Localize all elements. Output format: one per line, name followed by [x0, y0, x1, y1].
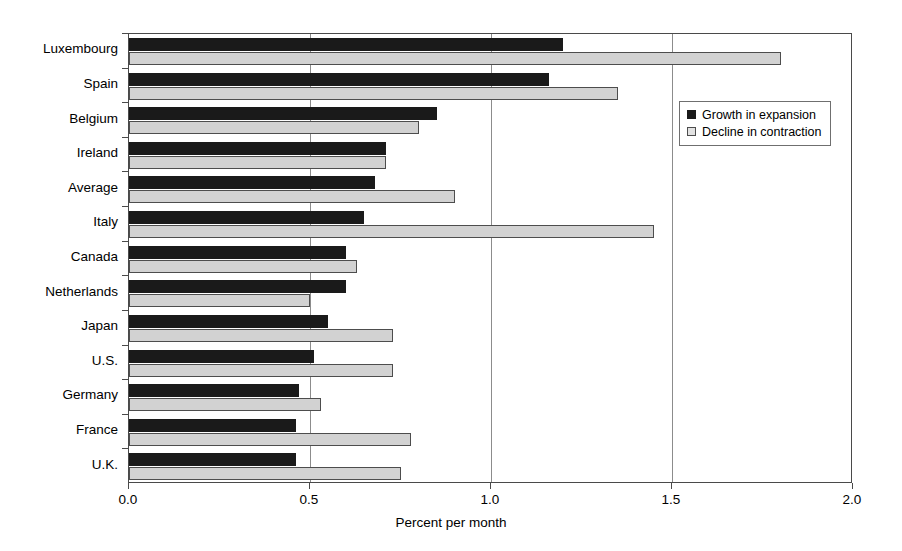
legend-label-decline: Decline in contraction	[702, 125, 822, 139]
y-axis-label-spain: Spain	[8, 77, 118, 91]
x-tick-2.0	[852, 483, 853, 489]
y-axis-label-germany: Germany	[8, 388, 118, 402]
bar-growth	[129, 176, 375, 189]
bar-growth	[129, 38, 563, 51]
y-axis-labels: LuxembourgSpainBelgiumIrelandAverageItal…	[0, 0, 118, 551]
bar-chart: LuxembourgSpainBelgiumIrelandAverageItal…	[0, 0, 902, 551]
bar-group-germany	[129, 384, 851, 419]
x-tick-label-1.5: 1.5	[641, 492, 701, 508]
bar-growth	[129, 419, 296, 432]
y-axis-label-italy: Italy	[8, 215, 118, 229]
bar-decline	[129, 467, 401, 480]
x-tick-0.0	[128, 483, 129, 489]
legend-swatch-dark-icon	[687, 110, 696, 119]
bar-growth	[129, 453, 296, 466]
bar-growth	[129, 384, 299, 397]
x-tick-label-1.0: 1.0	[460, 492, 520, 508]
x-axis-title: Percent per month	[0, 515, 902, 530]
bar-decline	[129, 260, 357, 273]
bar-growth	[129, 142, 386, 155]
x-tick-label-0.5: 0.5	[279, 492, 339, 508]
bar-group-france	[129, 419, 851, 454]
bar-group-average	[129, 176, 851, 211]
bar-growth	[129, 315, 328, 328]
x-tick-1.5	[671, 483, 672, 489]
bar-growth	[129, 73, 549, 86]
bar-decline	[129, 329, 393, 342]
bar-group-luxembourg	[129, 38, 851, 73]
y-axis-label-canada: Canada	[8, 250, 118, 264]
y-axis-label-japan: Japan	[8, 319, 118, 333]
x-tick-0.5	[309, 483, 310, 489]
legend-label-growth: Growth in expansion	[702, 108, 816, 122]
bar-decline	[129, 156, 386, 169]
y-axis-label-france: France	[8, 423, 118, 437]
bar-decline	[129, 121, 419, 134]
bar-group-italy	[129, 211, 851, 246]
y-axis-label-average: Average	[8, 181, 118, 195]
bar-decline	[129, 433, 411, 446]
bar-group-ireland	[129, 142, 851, 177]
bar-growth	[129, 350, 314, 363]
x-tick-label-0.0: 0.0	[98, 492, 158, 508]
bar-decline	[129, 294, 310, 307]
legend-item-decline-in-contraction: Decline in contraction	[687, 123, 822, 140]
bar-group-u-s	[129, 350, 851, 385]
x-tick-label-2.0: 2.0	[822, 492, 882, 508]
legend-item-growth-in-expansion: Growth in expansion	[687, 106, 822, 123]
bar-growth	[129, 280, 346, 293]
bar-group-netherlands	[129, 280, 851, 315]
legend-swatch-light-icon	[687, 127, 696, 136]
bar-decline	[129, 87, 618, 100]
bar-group-japan	[129, 315, 851, 350]
chart-legend: Growth in expansion Decline in contracti…	[679, 101, 831, 146]
x-tick-1.0	[490, 483, 491, 489]
y-axis-label-netherlands: Netherlands	[8, 285, 118, 299]
bar-decline	[129, 398, 321, 411]
bar-growth	[129, 107, 437, 120]
y-axis-label-luxembourg: Luxembourg	[8, 42, 118, 56]
bar-growth	[129, 246, 346, 259]
bar-group-canada	[129, 246, 851, 281]
bar-decline	[129, 52, 781, 65]
y-axis-label-belgium: Belgium	[8, 112, 118, 126]
y-axis-label-u-s: U.S.	[8, 354, 118, 368]
bar-decline	[129, 364, 393, 377]
y-axis-label-ireland: Ireland	[8, 146, 118, 160]
bar-decline	[129, 225, 654, 238]
bar-decline	[129, 190, 455, 203]
y-axis-label-u-k: U.K.	[8, 458, 118, 472]
bar-growth	[129, 211, 364, 224]
